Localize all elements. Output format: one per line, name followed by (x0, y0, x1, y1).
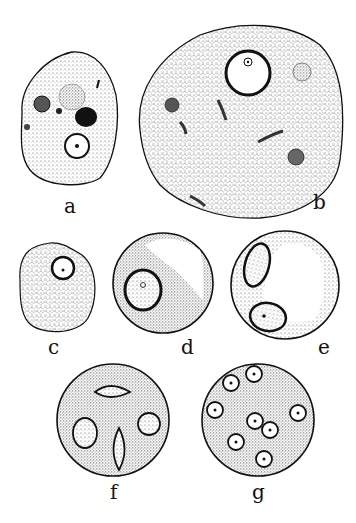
cell-e (231, 231, 339, 339)
label-e: e (318, 337, 330, 357)
cell-d (113, 233, 213, 333)
cell-f (57, 364, 169, 476)
label-a: a (64, 196, 76, 216)
cell-g (202, 364, 314, 476)
label-g: g (252, 482, 265, 502)
label-c: c (48, 337, 59, 357)
label-f: f (110, 482, 117, 502)
cell-c (20, 243, 95, 332)
illustration-plate (0, 0, 356, 523)
label-d: d (181, 337, 194, 357)
cell-a (21, 52, 117, 185)
label-b: b (313, 192, 326, 212)
